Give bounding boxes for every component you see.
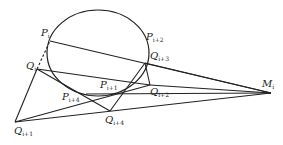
segment-Q_i1-Q_i2 xyxy=(15,85,150,122)
line-segments xyxy=(15,41,271,122)
label-Q-i-plus-4: Qi+4 xyxy=(105,115,124,126)
label-Q-i-plus-1: Qi+1 xyxy=(14,126,33,137)
geometry-diagram: Pi Pi+2 Qi+3 Qi Pi+1 Qi+2 Pi+4 Mi Qi+4 Q… xyxy=(0,0,283,145)
label-P-i-plus-4: Pi+4 xyxy=(62,92,80,103)
label-P-i-plus-1: Pi+1 xyxy=(100,80,118,91)
label-Q-i: Qi xyxy=(26,61,36,72)
segment-Q_i-Q_i1 xyxy=(15,69,37,122)
label-P-i-plus-2: Pi+2 xyxy=(146,32,164,43)
label-Q-i-plus-3: Qi+3 xyxy=(150,51,169,62)
segment-Q_i1-M_i xyxy=(15,93,271,122)
label-P-i: Pi xyxy=(41,28,50,39)
label-M-i: Mi xyxy=(262,79,274,90)
segment-Q_i-Q_i2 xyxy=(37,69,150,85)
segment-P_i4-M_i xyxy=(86,93,271,94)
diagram-canvas xyxy=(0,0,283,145)
segment-Q_i3-Q_i2 xyxy=(145,63,150,85)
label-Q-i-plus-2: Qi+2 xyxy=(150,87,169,98)
